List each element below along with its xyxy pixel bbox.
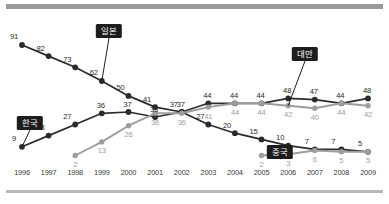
series-callout-2: 대만 [292,47,318,61]
value-label: 5 [366,156,370,165]
x-tick-2009: 2009 [360,168,376,177]
value-label: 62 [90,68,98,77]
line-chart: 1996199719981999200020012002200320042005… [0,0,389,204]
data-point [312,148,317,153]
x-tick-2007: 2007 [307,168,323,177]
value-label: 2 [73,160,77,169]
x-tick-2005: 2005 [254,168,270,177]
x-tick-1996: 1996 [14,168,30,177]
value-label: 5 [339,156,343,165]
value-label: 7 [305,136,309,145]
value-label: 82 [37,43,45,52]
data-point [312,97,318,103]
value-label: 36 [151,117,159,126]
data-point [126,123,131,128]
data-point [73,153,78,158]
value-label: 3 [286,158,290,167]
value-label: 27 [196,111,204,120]
value-label: 33 [150,104,158,113]
value-label: 41 [143,94,151,103]
data-point [259,153,264,158]
x-axis-tick-labels: 1996199719981999200020012002200320042005… [0,168,389,184]
data-point [365,103,370,108]
value-label: 44 [258,107,266,116]
value-label: 7 [331,136,335,145]
data-point [99,110,105,116]
data-point [259,101,264,106]
value-label: 44 [231,107,239,116]
data-point [339,149,344,154]
data-point [126,93,132,99]
x-tick-2001: 2001 [147,168,163,177]
value-label: 44 [203,90,211,99]
data-point [232,130,238,136]
data-point [72,122,78,128]
value-label: 6 [313,155,317,164]
value-label: 44 [337,107,345,116]
series-callout-3: 중국 [267,145,293,159]
value-label: 47 [310,87,318,96]
value-label: 9 [12,134,16,143]
data-point [99,139,104,144]
callout-leader-line [102,38,109,81]
data-point [46,53,52,59]
data-point [206,104,211,109]
x-tick-1997: 1997 [41,168,57,177]
data-point [312,106,317,111]
value-label: 50 [116,83,124,92]
data-point [339,101,344,106]
series-callout-0: 일본 [96,24,122,38]
x-tick-2003: 2003 [200,168,216,177]
value-label: 40 [311,112,319,121]
value-label: 37 [123,99,131,108]
data-point [205,122,211,128]
value-label: 73 [63,54,71,63]
value-label: 48 [283,85,291,94]
value-label: 13 [98,146,106,155]
x-tick-2006: 2006 [280,168,296,177]
data-point [259,137,265,143]
data-point [46,133,52,139]
data-point [126,109,132,115]
value-label: 10 [276,133,284,142]
value-label: 15 [250,126,258,135]
x-tick-2008: 2008 [334,168,350,177]
value-label: 20 [223,120,231,129]
x-tick-2004: 2004 [227,168,243,177]
value-label: 44 [336,90,344,99]
series-callout-1: 한국 [17,116,43,130]
data-point [72,64,78,70]
value-label: 48 [363,85,371,94]
x-tick-1998: 1998 [67,168,83,177]
value-label: 27 [63,111,71,120]
value-label: 2 [260,160,264,169]
value-label: 44 [257,90,265,99]
data-point [19,42,25,48]
value-label: 36 [178,117,186,126]
value-label: 37 [177,99,185,108]
value-label: 42 [364,110,372,119]
value-label: 42 [284,110,292,119]
data-point [232,101,237,106]
data-point [179,111,184,116]
data-point [365,149,370,154]
x-tick-2000: 2000 [121,168,137,177]
x-tick-2002: 2002 [174,168,190,177]
value-label: 5 [358,139,362,148]
data-point [365,96,371,102]
x-tick-1999: 1999 [94,168,110,177]
value-label: 44 [230,90,238,99]
value-label: 36 [97,100,105,109]
value-label: 26 [124,130,132,139]
value-label: 41 [204,111,212,120]
value-label: 91 [10,32,18,41]
